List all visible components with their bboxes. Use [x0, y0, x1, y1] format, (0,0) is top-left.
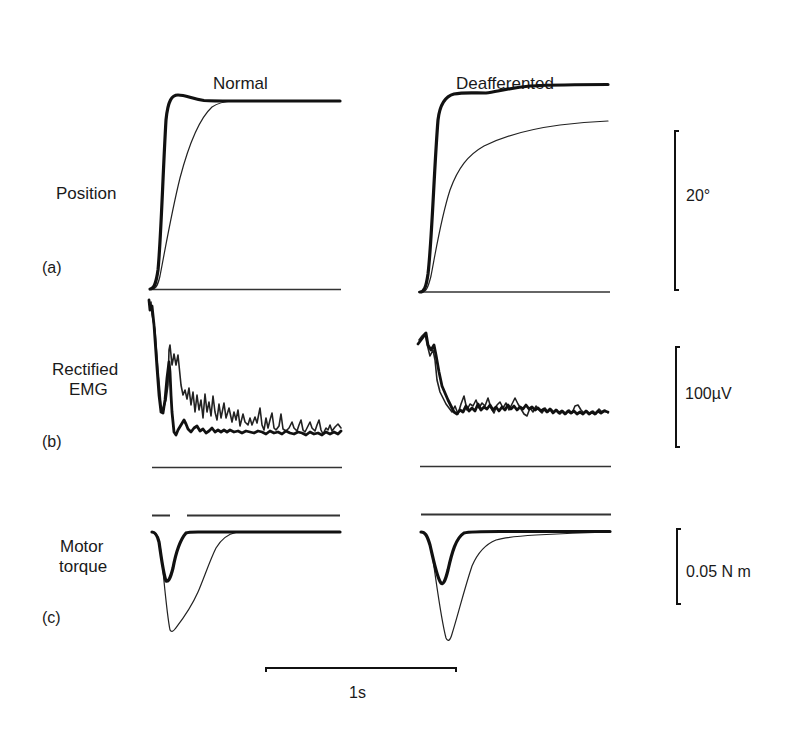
emg-deafferented	[418, 333, 611, 467]
torque-deafferented-fast-trace	[421, 532, 610, 584]
emg-normal	[149, 300, 342, 468]
scale-bar-torque	[677, 529, 681, 604]
position-normal-slow-trace	[152, 101, 340, 289]
emg-normal-fast-trace	[149, 300, 341, 435]
position-normal-fast-trace	[150, 95, 340, 289]
position-deafferented-fast-trace	[420, 85, 608, 293]
torque-normal-fast-trace	[152, 532, 340, 581]
scale-bar-time	[266, 668, 456, 672]
figure-traces	[0, 0, 803, 731]
emg-deafferented-slow-trace	[419, 333, 608, 416]
position-normal	[149, 95, 341, 290]
scale-bar-emg	[676, 347, 680, 447]
emg-normal-slow-trace	[150, 302, 341, 434]
torque-deafferented	[421, 515, 611, 641]
position-deafferented-slow-trace	[422, 121, 608, 292]
torque-deafferented-slow-trace	[422, 532, 610, 640]
scale-bar-position	[675, 131, 679, 290]
torque-normal	[152, 516, 340, 632]
position-deafferented	[418, 85, 610, 293]
